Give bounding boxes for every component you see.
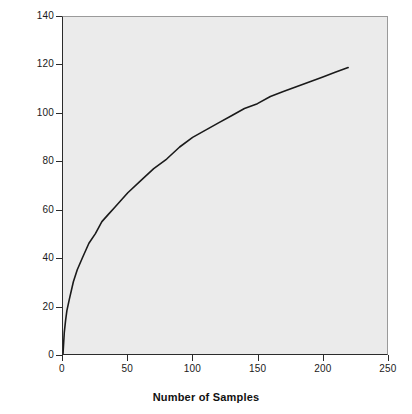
xtick-mark-50: [127, 355, 128, 361]
series-line-species-accumulation: [63, 68, 348, 354]
xtick-mark-250: [388, 355, 389, 361]
xtick-label-150: 150: [238, 364, 278, 374]
ytick-label-40: 40: [42, 253, 54, 263]
ytick-label-120: 120: [37, 59, 54, 69]
ytick-mark-20: [56, 307, 62, 308]
xtick-label-200: 200: [303, 364, 343, 374]
ytick-mark-100: [56, 113, 62, 114]
plot-svg: [63, 17, 387, 354]
ytick-mark-40: [56, 258, 62, 259]
ytick-label-80: 80: [42, 156, 54, 166]
xtick-label-250: 250: [368, 364, 408, 374]
ytick-label-100: 100: [37, 108, 54, 118]
ytick-mark-140: [56, 16, 62, 17]
xtick-mark-150: [258, 355, 259, 361]
plot-area: [62, 16, 388, 355]
xtick-label-100: 100: [172, 364, 212, 374]
ytick-label-60: 60: [42, 205, 54, 215]
x-axis-title: Number of Samples: [0, 391, 412, 403]
xtick-mark-0: [62, 355, 63, 361]
xtick-label-50: 50: [107, 364, 147, 374]
species-accumulation-chart: 140 120 100 80 60 40 20 0 0 50 100 150 2…: [0, 0, 412, 414]
xtick-mark-200: [323, 355, 324, 361]
ytick-label-140: 140: [37, 11, 54, 21]
ytick-mark-80: [56, 161, 62, 162]
ytick-mark-60: [56, 210, 62, 211]
ytick-label-20: 20: [42, 302, 54, 312]
xtick-label-0: 0: [42, 364, 82, 374]
ytick-mark-120: [56, 64, 62, 65]
xtick-mark-100: [192, 355, 193, 361]
ytick-label-0: 0: [48, 350, 54, 360]
